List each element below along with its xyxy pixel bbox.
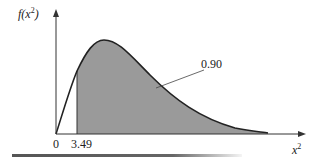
x-axis-label: x2 bbox=[292, 144, 301, 156]
area-annotation: 0.90 bbox=[201, 58, 222, 70]
x-label-exponent: 2 bbox=[297, 142, 301, 151]
y-axis-label: f(x2) bbox=[18, 8, 39, 20]
shaded-area bbox=[77, 40, 268, 134]
y-label-text: f(x bbox=[18, 7, 31, 21]
x-tick-zero: 0 bbox=[53, 138, 59, 150]
y-label-close: ) bbox=[35, 7, 39, 21]
x-tick-critical: 3.49 bbox=[71, 138, 92, 150]
annotation-leader bbox=[156, 70, 204, 88]
footer-divider bbox=[12, 154, 242, 157]
y-axis-arrow bbox=[53, 9, 59, 17]
x-axis-arrow bbox=[298, 131, 306, 137]
chi-square-density-chart bbox=[0, 0, 321, 161]
